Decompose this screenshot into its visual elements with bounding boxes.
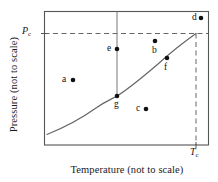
data-point-b[interactable] bbox=[153, 39, 158, 44]
data-point-label-a: a bbox=[62, 74, 66, 84]
data-point-g[interactable] bbox=[115, 94, 120, 99]
data-point-label-b: b bbox=[152, 45, 157, 55]
data-point-f[interactable] bbox=[165, 56, 170, 61]
vaporization-curve bbox=[47, 34, 196, 135]
data-point-label-e: e bbox=[107, 43, 111, 53]
data-point-label-c: c bbox=[136, 103, 140, 113]
critical-temperature-tick-label: Tc bbox=[190, 146, 199, 159]
pc-subscript: c bbox=[28, 30, 31, 38]
data-point-d[interactable] bbox=[199, 16, 204, 21]
tc-subscript: c bbox=[196, 151, 199, 159]
critical-pressure-tick-label: Pc bbox=[22, 25, 31, 38]
phase-diagram-figure: Pressure (not to scale) Temperature (not… bbox=[0, 0, 218, 182]
data-point-label-d: d bbox=[192, 12, 197, 22]
x-axis-title: Temperature (not to scale) bbox=[44, 164, 210, 175]
phase-diagram-plot bbox=[0, 0, 218, 182]
y-axis-title: Pressure (not to scale) bbox=[8, 20, 19, 150]
data-point-c[interactable] bbox=[144, 107, 149, 112]
data-point-a[interactable] bbox=[71, 78, 76, 83]
data-point-e[interactable] bbox=[115, 47, 120, 52]
data-point-label-f: f bbox=[164, 62, 167, 72]
data-point-label-g: g bbox=[114, 99, 119, 109]
